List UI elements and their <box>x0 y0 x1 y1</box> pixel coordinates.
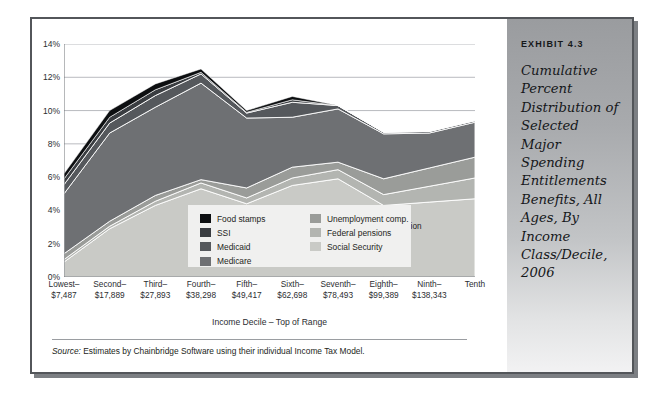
exhibit-sidebar-inner: EXHIBIT 4.3 Cumulative Percent Distribut… <box>521 39 622 283</box>
y-axis-tick-label: 12% <box>43 72 60 82</box>
legend-swatch-icon <box>310 228 321 237</box>
x-tick-value: $62,698 <box>277 290 307 301</box>
source-divider <box>52 339 467 340</box>
y-axis-ticks: 0%2%4%6%8%10%12%14% <box>32 44 63 277</box>
x-tick-name: Fourth– <box>186 279 216 290</box>
x-tick-value: $99,389 <box>369 290 399 301</box>
legend-item-label: Unemployment comp. <box>327 214 408 224</box>
exhibit-caption: Cumulative Percent Distribution of Selec… <box>521 62 622 283</box>
exhibit-sidebar: EXHIBIT 4.3 Cumulative Percent Distribut… <box>507 19 632 372</box>
x-axis-tick-label: Tenth <box>465 279 485 290</box>
y-axis-tick-label: 4% <box>48 205 60 215</box>
legend-item: SSI <box>200 227 265 238</box>
chart-legend: Food stampsSSIMedicaidMedicare Unemploym… <box>188 205 411 267</box>
source-text: Estimates by Chainbridge Software using … <box>81 346 365 356</box>
x-tick-name: Tenth <box>465 279 485 290</box>
legend-swatch-icon <box>200 257 211 266</box>
legend-swatch-icon <box>200 228 211 237</box>
x-axis-tick-label: Lowest–$7,487 <box>49 279 80 300</box>
legend-item-label: Social Security <box>327 242 382 252</box>
x-axis-tick-label: Third–$27,893 <box>140 279 170 300</box>
x-tick-value: $78,493 <box>320 290 355 301</box>
x-tick-name: Sixth– <box>277 279 307 290</box>
legend-swatch-icon <box>200 214 211 223</box>
y-axis-tick-label: 14% <box>43 39 60 49</box>
source-note: Source: Estimates by Chainbridge Softwar… <box>52 346 365 356</box>
exhibit-figure: 0%2%4%6%8%10%12%14% Total spending inclu… <box>0 0 650 394</box>
y-axis-tick-label: 8% <box>48 139 60 149</box>
x-tick-value: $17,889 <box>93 290 126 301</box>
y-axis-tick-label: 10% <box>43 106 60 116</box>
x-tick-value: $27,893 <box>140 290 170 301</box>
x-tick-value: $7,487 <box>49 290 80 301</box>
legend-swatch-icon <box>200 242 211 251</box>
x-tick-name: Ninth– <box>412 279 447 290</box>
y-axis-tick-label: 2% <box>48 239 60 249</box>
x-tick-name: Eighth– <box>369 279 399 290</box>
legend-item: Medicaid <box>200 241 265 252</box>
legend-swatch-icon <box>310 242 321 251</box>
x-axis-tick-label: Ninth–$138,343 <box>412 279 447 300</box>
x-axis-tick-label: Second–$17,889 <box>93 279 126 300</box>
legend-item-label: Medicare <box>217 256 251 266</box>
x-tick-value: $38,298 <box>186 290 216 301</box>
legend-item: Unemployment comp. <box>310 213 408 224</box>
x-tick-name: Seventh– <box>320 279 355 290</box>
legend-swatch-icon <box>310 214 321 223</box>
x-axis-tick-label: Fifth–$49,417 <box>232 279 262 300</box>
y-axis-tick-label: 6% <box>48 172 60 182</box>
legend-column-right: Unemployment comp.Federal pensionsSocial… <box>310 213 408 256</box>
source-prefix: Source: <box>52 346 81 356</box>
x-axis-tick-label: Seventh–$78,493 <box>320 279 355 300</box>
x-axis-tick-label: Fourth–$38,298 <box>186 279 216 300</box>
legend-item: Federal pensions <box>310 227 408 238</box>
legend-item-label: SSI <box>217 228 231 238</box>
legend-item-label: Medicaid <box>217 242 251 252</box>
x-tick-name: Third– <box>140 279 170 290</box>
x-tick-value: $138,343 <box>412 290 447 301</box>
legend-item-label: Food stamps <box>217 214 265 224</box>
legend-column-left: Food stampsSSIMedicaidMedicare <box>200 213 265 270</box>
legend-item-label: Federal pensions <box>327 228 391 238</box>
x-tick-value: $49,417 <box>232 290 262 301</box>
x-tick-name: Lowest– <box>49 279 80 290</box>
x-axis-tick-label: Eighth–$99,389 <box>369 279 399 300</box>
chart-panel: 0%2%4%6%8%10%12%14% Total spending inclu… <box>32 19 506 372</box>
legend-item: Food stamps <box>200 213 265 224</box>
x-tick-name: Fifth– <box>232 279 262 290</box>
legend-item: Social Security <box>310 241 408 252</box>
legend-item: Medicare <box>200 256 265 267</box>
x-axis-title: Income Decile – Top of Range <box>64 317 475 327</box>
x-axis-tick-label: Sixth–$62,698 <box>277 279 307 300</box>
exhibit-label: EXHIBIT 4.3 <box>521 39 622 49</box>
x-tick-name: Second– <box>93 279 126 290</box>
